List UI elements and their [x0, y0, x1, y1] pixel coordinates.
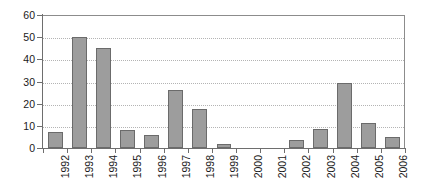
bar-1998[interactable]: [192, 109, 207, 148]
x-tick-mark: [260, 148, 261, 153]
x-tick-label-1997: 1997: [181, 155, 192, 178]
x-tick-mark: [236, 148, 237, 153]
x-tick-label-2005: 2005: [374, 155, 385, 178]
y-tick-mark: [37, 148, 42, 149]
bar-1992[interactable]: [48, 132, 63, 148]
x-tick-mark: [357, 148, 358, 153]
plot-area: [43, 15, 405, 148]
y-tick-label: 50: [5, 32, 35, 43]
x-tick-label-1995: 1995: [132, 155, 143, 178]
y-tick-label: 60: [5, 10, 35, 21]
y-tick-label: 20: [5, 98, 35, 109]
y-tick-mark: [37, 104, 42, 105]
x-tick-label-1998: 1998: [205, 155, 216, 178]
y-tick-label: 0: [5, 143, 35, 154]
x-tick-label-1999: 1999: [229, 155, 240, 178]
x-tick-mark: [381, 148, 382, 153]
x-tick-label-1994: 1994: [108, 155, 119, 178]
bar-1996[interactable]: [144, 135, 159, 148]
x-tick-label-1993: 1993: [84, 155, 95, 178]
x-tick-mark: [115, 148, 116, 153]
bar-2006[interactable]: [385, 137, 400, 148]
x-tick-mark: [212, 148, 213, 153]
bar-1994[interactable]: [96, 48, 111, 148]
y-tick-mark: [37, 82, 42, 83]
y-tick-label: 40: [5, 54, 35, 65]
bar-2004[interactable]: [337, 83, 352, 148]
y-axis-line: [42, 14, 43, 149]
x-tick-label-1992: 1992: [60, 155, 71, 178]
x-tick-label-2002: 2002: [301, 155, 312, 178]
x-tick-label-2003: 2003: [326, 155, 337, 178]
gridline: [43, 38, 404, 39]
x-tick-mark: [188, 148, 189, 153]
x-axis-line: [42, 148, 406, 149]
x-tick-label-2006: 2006: [398, 155, 409, 178]
x-tick-label-2004: 2004: [350, 155, 361, 178]
bar-2002[interactable]: [289, 140, 304, 148]
y-tick-mark: [37, 59, 42, 60]
x-tick-mark: [140, 148, 141, 153]
bar-chart: 0102030405060 19921993199419951996199719…: [0, 0, 422, 192]
x-tick-label-2001: 2001: [277, 155, 288, 178]
bar-1993[interactable]: [72, 37, 87, 148]
x-tick-mark: [405, 148, 406, 153]
x-tick-mark: [43, 148, 44, 153]
x-tick-label-1996: 1996: [157, 155, 168, 178]
bar-2005[interactable]: [361, 123, 376, 148]
x-tick-mark: [67, 148, 68, 153]
y-tick-label: 30: [5, 76, 35, 87]
bar-2003[interactable]: [313, 129, 328, 148]
y-tick-mark: [37, 37, 42, 38]
x-tick-label-2000: 2000: [253, 155, 264, 178]
x-tick-mark: [284, 148, 285, 153]
y-tick-mark: [37, 15, 42, 16]
x-tick-mark: [91, 148, 92, 153]
x-tick-mark: [164, 148, 165, 153]
y-tick-mark: [37, 126, 42, 127]
x-tick-mark: [308, 148, 309, 153]
y-tick-label: 10: [5, 121, 35, 132]
bar-1997[interactable]: [168, 90, 183, 148]
bar-1995[interactable]: [120, 130, 135, 148]
x-tick-mark: [333, 148, 334, 153]
